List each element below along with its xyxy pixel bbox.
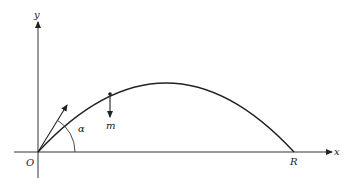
range-label: R bbox=[290, 157, 298, 167]
angle-label: α bbox=[78, 124, 85, 134]
trajectory-curve bbox=[38, 83, 294, 152]
mass-label: m bbox=[106, 121, 115, 131]
y-axis-label: y bbox=[34, 10, 40, 20]
projectile-diagram: y x O R m α bbox=[0, 0, 351, 187]
origin-label: O bbox=[26, 158, 34, 168]
diagram-canvas bbox=[0, 0, 351, 187]
x-axis-label: x bbox=[334, 147, 340, 157]
